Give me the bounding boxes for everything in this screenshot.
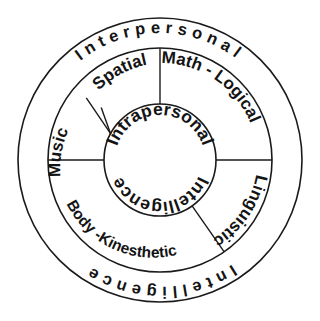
core-label-intrapersonal: Intrapersonal	[102, 99, 218, 148]
multiple-intelligences-diagram: Interpersonal Intelligence Spatial Math …	[0, 0, 320, 321]
segment-label-linguistic: Linguistic	[210, 173, 271, 251]
core-intrapersonal-textpath: Intrapersonal	[102, 99, 218, 148]
core-intelligence-textpath: Intelligence	[107, 174, 213, 218]
outer-ring-bottom-textpath: Intelligence	[80, 262, 240, 302]
segment-linguistic-textpath: Linguistic	[210, 173, 271, 251]
diagram-root: Interpersonal Intelligence Spatial Math …	[0, 0, 320, 321]
divider-music-spatial-seg	[86, 98, 111, 134]
core-label-intelligence: Intelligence	[107, 174, 213, 218]
outer-ring-bottom-label: Intelligence	[80, 262, 240, 302]
